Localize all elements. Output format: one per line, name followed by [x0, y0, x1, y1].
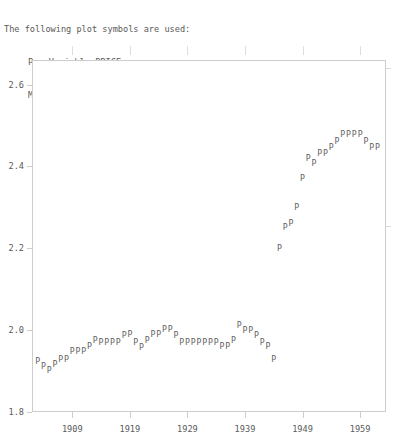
data-point-marker: P [323, 149, 328, 157]
data-point-marker: P [306, 154, 311, 162]
data-point-marker: P [340, 130, 345, 138]
x-tick-label: 1909 [62, 424, 83, 434]
data-point-marker: P [116, 337, 121, 345]
x-tick-mark-top [303, 46, 304, 55]
data-point-marker: P [214, 337, 219, 345]
data-point-marker: P [266, 342, 271, 350]
y-tick-mark [27, 85, 32, 86]
y-tick-label: 2.0 [8, 325, 24, 335]
data-point-marker: P [352, 130, 357, 138]
data-point-marker: P [329, 143, 334, 151]
data-point-marker: P [219, 342, 224, 350]
data-point-marker: P [47, 366, 52, 374]
data-point-marker: P [312, 159, 317, 167]
data-point-marker: P [294, 203, 299, 211]
x-tick-mark [187, 412, 188, 418]
x-tick-mark [72, 412, 73, 418]
data-point-marker: P [122, 331, 127, 339]
data-point-marker: P [202, 337, 207, 345]
x-tick-mark [130, 412, 131, 418]
x-tick-mark [303, 412, 304, 418]
data-point-marker: P [168, 325, 173, 333]
data-point-marker: P [254, 331, 259, 339]
data-point-marker: P [277, 244, 282, 252]
data-point-marker: P [133, 337, 138, 345]
data-point-marker: P [289, 219, 294, 227]
data-point-marker: P [237, 321, 242, 329]
y-tick-label: 2.6 [8, 80, 24, 90]
data-point-marker: P [41, 362, 46, 370]
data-point-marker: P [35, 357, 40, 365]
data-point-marker: P [104, 337, 109, 345]
data-point-marker: P [369, 143, 374, 151]
y-tick-mark [27, 166, 32, 167]
data-point-marker: P [64, 355, 69, 363]
y-tick-label: 2.4 [8, 161, 24, 171]
data-point-marker: P [196, 337, 201, 345]
x-tick-label: 1939 [235, 424, 256, 434]
data-point-marker: P [335, 137, 340, 145]
data-point-marker: P [283, 223, 288, 231]
x-tick-mark [360, 412, 361, 418]
scatter-plot: 1.82.02.22.42.6 190919191929193919491959… [0, 0, 398, 441]
x-tick-label: 1919 [119, 424, 140, 434]
data-point-marker: P [99, 337, 104, 345]
data-point-marker: P [150, 330, 155, 338]
data-point-marker: P [231, 336, 236, 344]
data-point-marker: P [162, 325, 167, 333]
data-point-marker: P [191, 337, 196, 345]
x-tick-mark-top [245, 46, 246, 55]
y-tick-mark [27, 330, 32, 331]
x-tick-mark-top [187, 46, 188, 55]
data-point-marker: P [53, 360, 58, 368]
right-edge-tick-upper [386, 68, 391, 69]
x-tick-mark [245, 412, 246, 418]
data-point-marker: P [93, 336, 98, 344]
data-point-marker: P [110, 337, 115, 345]
data-point-marker: P [145, 336, 150, 344]
data-point-marker: P [260, 337, 265, 345]
data-point-marker: P [300, 174, 305, 182]
data-point-marker: P [363, 137, 368, 145]
data-point-marker: P [179, 337, 184, 345]
x-tick-mark-top [360, 46, 361, 55]
data-point-marker: P [225, 342, 230, 350]
data-point-marker: P [375, 143, 380, 151]
data-point-marker: P [156, 330, 161, 338]
right-edge-tick-lower [386, 226, 391, 227]
data-point-marker: P [70, 347, 75, 355]
data-point-marker: P [317, 149, 322, 157]
data-point-marker: P [173, 331, 178, 339]
x-tick-label: 1949 [292, 424, 313, 434]
data-point-marker: P [248, 326, 253, 334]
y-tick-label: 1.8 [8, 407, 24, 417]
data-point-marker: P [358, 130, 363, 138]
data-point-marker: P [81, 347, 86, 355]
y-tick-mark [27, 248, 32, 249]
y-tick-mark [27, 412, 32, 413]
y-tick-label: 2.2 [8, 243, 24, 253]
plot-frame [32, 60, 386, 412]
data-point-marker: P [58, 355, 63, 363]
data-point-marker: P [139, 342, 144, 350]
data-point-marker: P [185, 337, 190, 345]
data-point-marker: P [346, 130, 351, 138]
data-point-marker: P [208, 337, 213, 345]
x-tick-label: 1959 [350, 424, 371, 434]
x-tick-label: 1929 [177, 424, 198, 434]
data-point-marker: P [243, 326, 248, 334]
data-point-marker: P [127, 330, 132, 338]
data-point-marker: P [87, 342, 92, 350]
data-point-marker: P [76, 347, 81, 355]
x-tick-mark-top [130, 46, 131, 55]
data-point-marker: P [271, 355, 276, 363]
x-tick-mark-top [72, 46, 73, 55]
